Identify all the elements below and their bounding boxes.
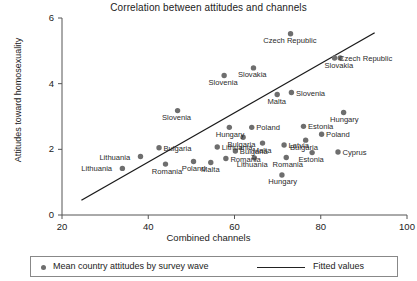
data-point	[249, 125, 254, 130]
point-label: Romania	[152, 167, 182, 176]
x-tick-60: 60	[220, 221, 250, 232]
point-label: Hungary	[216, 130, 245, 139]
point-label: Malta	[201, 165, 220, 174]
point-label: Lithuania	[99, 153, 130, 162]
x-tick-80: 80	[306, 221, 336, 232]
point-label: Czech Republic	[263, 36, 316, 45]
point-label: Latvia	[289, 141, 309, 150]
plot-area	[0, 0, 417, 281]
y-tick-2: 2	[34, 143, 54, 154]
point-label: Hungary	[330, 115, 359, 124]
data-point	[223, 156, 228, 161]
y-tick-4: 4	[34, 78, 54, 89]
legend-marker-line	[257, 267, 305, 268]
data-point	[120, 166, 125, 171]
legend-label-fit: Fitted values	[313, 261, 364, 271]
data-point	[215, 144, 220, 149]
point-label: Slovenia	[162, 113, 191, 122]
point-label: Lithuania	[81, 164, 112, 173]
point-label: Bulgaria	[164, 144, 192, 153]
point-label: Slovenia	[296, 89, 325, 98]
point-label: Slovakia	[238, 70, 267, 79]
point-label: Slovakia	[325, 61, 354, 70]
point-label: Slovenia	[209, 78, 238, 87]
data-point	[156, 145, 161, 150]
legend: Mean country attitudes by survey wave Fi…	[30, 256, 398, 277]
point-label: Poland	[256, 123, 280, 132]
data-point	[138, 154, 143, 159]
x-tick-20: 20	[47, 221, 77, 232]
data-point	[301, 124, 306, 129]
point-label: Romania	[230, 155, 260, 164]
data-point	[319, 132, 324, 137]
point-label: Hungary	[268, 177, 297, 186]
point-label: Cyprus	[343, 148, 367, 157]
data-point	[281, 142, 286, 147]
legend-label-points: Mean country attitudes by survey wave	[53, 261, 209, 271]
y-tick-6: 6	[34, 12, 54, 23]
data-point	[335, 149, 340, 154]
point-label: Poland	[326, 130, 350, 139]
point-label: Malta	[267, 97, 286, 106]
x-tick-40: 40	[133, 221, 163, 232]
y-tick-0: 0	[34, 209, 54, 220]
point-label: Romania	[273, 160, 303, 169]
scatter-chart-root: Correlation between attitudes and channe…	[0, 0, 417, 281]
legend-marker-dot	[41, 265, 46, 270]
data-point	[289, 90, 294, 95]
x-tick-100: 100	[392, 221, 417, 232]
